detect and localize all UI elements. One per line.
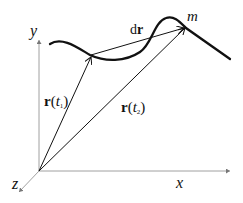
z-axis-label: z [11, 175, 19, 192]
r-t2-label: r(t2) [121, 99, 145, 116]
vector-r-t2 [39, 28, 185, 171]
x-axis-label: x [175, 174, 183, 191]
vector-r-t1 [39, 57, 91, 171]
r-t1-label: r(t1) [44, 93, 68, 110]
z-axis [19, 171, 39, 192]
y-axis-label: y [28, 22, 38, 40]
dr-label: dr [130, 22, 143, 37]
diagram-canvas: y x z m dr r(t1) r(t2) [0, 0, 243, 203]
particle-label: m [187, 8, 198, 24]
